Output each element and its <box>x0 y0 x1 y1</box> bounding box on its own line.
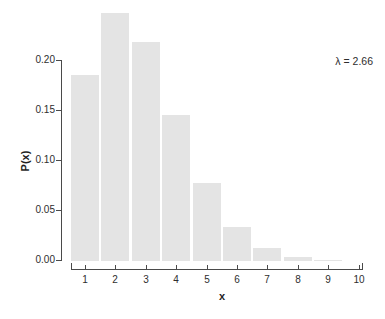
x-axis-title: x <box>202 290 242 302</box>
y-tick-0.10 <box>56 160 61 161</box>
x-tick-9 <box>328 265 329 269</box>
y-tick-label-0.05: 0.05 <box>23 204 55 216</box>
x-tick-3 <box>146 265 147 269</box>
x-tick-label-2: 2 <box>104 274 126 286</box>
y-tick-label-0.15: 0.15 <box>23 104 55 116</box>
bar-x9 <box>314 260 342 261</box>
x-axis-line <box>71 269 363 270</box>
x-tick-label-9: 9 <box>317 274 339 286</box>
y-tick-0.00 <box>56 260 61 261</box>
y-axis-title: P(x) <box>19 131 33 191</box>
x-tick-label-8: 8 <box>287 274 309 286</box>
x-tick-label-3: 3 <box>135 274 157 286</box>
x-tick-label-4: 4 <box>165 274 187 286</box>
x-tick-7 <box>267 265 268 269</box>
bar-x7 <box>253 248 281 261</box>
x-tick-10 <box>359 265 360 269</box>
x-tick-6 <box>237 265 238 269</box>
y-tick-label-0.20: 0.20 <box>23 54 55 66</box>
y-tick-0.15 <box>56 110 61 111</box>
bar-x2 <box>101 13 129 261</box>
poisson-distribution-chart: 0.000.050.100.150.2012345678910 P(x) x λ… <box>0 0 385 319</box>
bar-x4 <box>162 115 190 261</box>
x-tick-label-10: 10 <box>348 274 370 286</box>
x-axis-left-cap <box>71 263 72 269</box>
bar-x6 <box>223 227 251 261</box>
x-tick-5 <box>207 265 208 269</box>
x-tick-8 <box>298 265 299 269</box>
y-tick-label-0.00: 0.00 <box>23 254 55 266</box>
bar-x3 <box>132 42 160 261</box>
x-tick-label-7: 7 <box>256 274 278 286</box>
y-axis-line <box>61 60 62 261</box>
x-tick-2 <box>115 265 116 269</box>
x-tick-label-6: 6 <box>226 274 248 286</box>
x-tick-1 <box>85 265 86 269</box>
plot-area: 0.000.050.100.150.2012345678910 <box>0 0 385 319</box>
x-tick-4 <box>176 265 177 269</box>
y-tick-0.05 <box>56 210 61 211</box>
y-tick-0.20 <box>56 60 61 61</box>
bar-x1 <box>71 75 99 261</box>
bar-x5 <box>193 183 221 261</box>
bar-x8 <box>284 257 312 261</box>
x-axis-right-cap <box>362 263 363 269</box>
x-tick-label-5: 5 <box>196 274 218 286</box>
x-tick-label-1: 1 <box>74 274 96 286</box>
lambda-annotation: λ = 2.66 <box>335 55 373 67</box>
